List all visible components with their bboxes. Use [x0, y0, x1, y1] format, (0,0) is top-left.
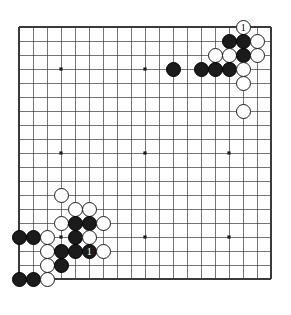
black-stone — [68, 244, 83, 259]
go-diagram: 11 — [0, 0, 291, 315]
white-stone — [54, 216, 69, 231]
white-stone — [96, 216, 111, 231]
white-stone — [82, 230, 97, 245]
white-stone — [54, 188, 69, 203]
black-stone — [12, 272, 27, 287]
white-stone — [236, 104, 251, 119]
white-stone — [68, 202, 83, 217]
white-stone — [208, 48, 223, 63]
black-stone — [54, 244, 69, 259]
black-move-1: 1 — [82, 244, 97, 259]
white-stone — [96, 244, 111, 259]
black-stone — [26, 272, 41, 287]
black-stone — [68, 216, 83, 231]
white-stone — [82, 202, 97, 217]
stone-move-number: 1 — [237, 21, 250, 34]
white-stone — [222, 48, 237, 63]
white-stone — [40, 272, 55, 287]
black-stone — [236, 34, 251, 49]
white-stone — [40, 258, 55, 273]
white-stone — [236, 76, 251, 91]
black-stone — [208, 62, 223, 77]
white-stone — [250, 48, 265, 63]
black-stone — [236, 48, 251, 63]
white-stone — [250, 34, 265, 49]
black-stone — [166, 62, 181, 77]
white-stone — [40, 230, 55, 245]
white-stone — [40, 244, 55, 259]
black-stone — [222, 34, 237, 49]
black-stone — [194, 62, 209, 77]
black-stone — [54, 258, 69, 273]
black-stone — [68, 230, 83, 245]
black-stone — [26, 230, 41, 245]
go-board[interactable]: 11 — [0, 0, 291, 315]
black-stone — [12, 230, 27, 245]
white-move-1: 1 — [236, 20, 251, 35]
black-stone — [222, 62, 237, 77]
black-stone — [82, 216, 97, 231]
white-stone — [236, 62, 251, 77]
stone-move-number: 1 — [83, 245, 96, 258]
